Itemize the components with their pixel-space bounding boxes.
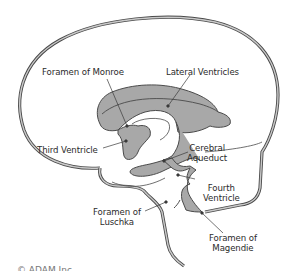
label-line: Foramen of bbox=[209, 233, 257, 243]
third-ventricle bbox=[118, 125, 150, 159]
label-third-ventricle: Third Ventricle bbox=[37, 145, 98, 155]
lateral-ventricles bbox=[97, 85, 230, 133]
label-line: Fourth bbox=[203, 183, 240, 193]
label-cerebral-aqueduct: Cerebral Aqueduct bbox=[187, 143, 227, 163]
label-line: Luschka bbox=[93, 217, 141, 227]
label-foramen-monroe: Foramen of Monroe bbox=[42, 67, 124, 77]
cut-off-caption: © ADAM Inc bbox=[17, 265, 79, 271]
label-foramen-magendie: Foramen of Magendie bbox=[209, 233, 257, 253]
label-fourth-ventricle: Fourth Ventricle bbox=[203, 183, 240, 203]
label-foramen-luschka: Foramen of Luschka bbox=[93, 207, 141, 227]
label-lateral-ventricles: Lateral Ventricles bbox=[166, 67, 239, 77]
ventricles-diagram bbox=[0, 0, 291, 272]
label-line: Cerebral bbox=[187, 143, 227, 153]
label-line: Magendie bbox=[209, 243, 257, 253]
label-line: Foramen of bbox=[93, 207, 141, 217]
label-line: Ventricle bbox=[203, 193, 240, 203]
label-line: Aqueduct bbox=[187, 153, 227, 163]
